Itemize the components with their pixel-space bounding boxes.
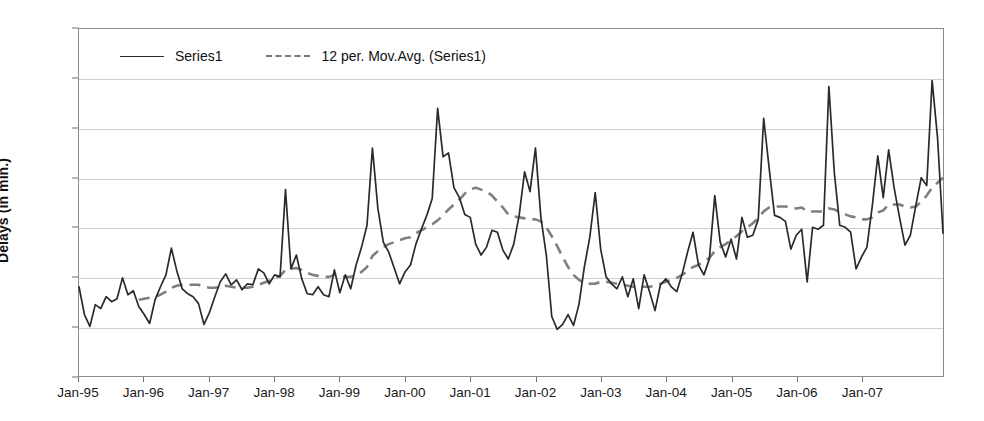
legend-entry-series1: Series1 <box>120 48 222 64</box>
x-tick-mark <box>405 377 406 382</box>
y-axis-title-label: Delays (in min.) <box>0 158 11 263</box>
x-tick-mark <box>470 377 471 382</box>
x-tick-mark <box>862 377 863 382</box>
chart-container: Delays (in min.) 3.032.521.510.50 Jan-95… <box>0 0 984 421</box>
x-tick-mark <box>536 377 537 382</box>
x-tick-mark <box>339 377 340 382</box>
plot-area <box>78 28 944 377</box>
x-tick-mark <box>274 377 275 382</box>
legend-label-series1: Series1 <box>175 48 222 64</box>
x-tick-label: Jan-07 <box>812 385 912 400</box>
series-canvas <box>79 29 943 376</box>
x-tick-mark <box>78 377 79 382</box>
legend-label-moving-average: 12 per. Mov.Avg. (Series1) <box>321 48 485 64</box>
legend-entry-moving-average: 12 per. Mov.Avg. (Series1) <box>266 48 485 64</box>
x-tick-mark <box>601 377 602 382</box>
series-line-moving-average <box>139 178 943 300</box>
y-axis-title: Delays (in min.) <box>0 0 34 421</box>
series-line-series1 <box>79 81 943 330</box>
x-tick-mark <box>143 377 144 382</box>
x-tick-mark <box>732 377 733 382</box>
chart-legend: Series1 12 per. Mov.Avg. (Series1) <box>120 48 486 64</box>
x-tick-mark <box>209 377 210 382</box>
x-tick-mark <box>797 377 798 382</box>
legend-swatch-solid-line-icon <box>120 56 164 57</box>
legend-swatch-dashed-line-icon <box>266 55 310 57</box>
x-tick-mark <box>666 377 667 382</box>
